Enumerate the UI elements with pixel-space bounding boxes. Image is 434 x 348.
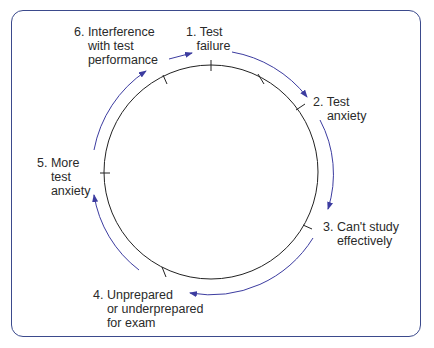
step-4-label: 4. Unprepared or underprepared for exam	[93, 288, 204, 330]
cycle-arrows	[94, 52, 333, 295]
step-6-label: 6. Interference with test performance	[74, 25, 158, 67]
step-2-label: 2. Test anxiety	[313, 95, 367, 123]
cycle-circle	[104, 65, 318, 279]
step-3-label: 3. Can't study effectively	[323, 220, 399, 248]
step-1-label: 1. Test failure	[186, 25, 230, 53]
step-5-label: 5. More test anxiety	[37, 156, 91, 198]
